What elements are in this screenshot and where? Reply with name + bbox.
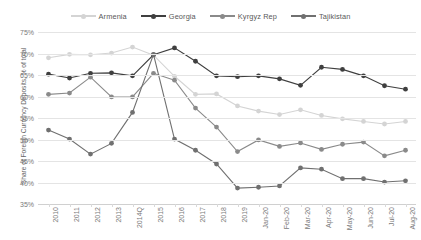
x-axis-tick [238, 204, 239, 207]
data-point[interactable] [172, 46, 177, 51]
legend-marker-icon-2 [220, 14, 225, 19]
x-axis-tick [154, 204, 155, 207]
legend-label-0: Armenia [99, 12, 127, 21]
x-axis-tick [364, 204, 365, 207]
data-point[interactable] [235, 149, 240, 154]
data-point[interactable] [46, 128, 51, 133]
data-point[interactable] [256, 109, 261, 114]
data-point[interactable] [67, 91, 72, 96]
gridline [38, 140, 416, 141]
x-axis-tick-label: Aug-20 [409, 207, 416, 230]
data-point[interactable] [130, 110, 135, 115]
legend-marker-icon-3 [301, 14, 306, 19]
data-point[interactable] [382, 153, 387, 158]
x-axis-tick [196, 204, 197, 207]
legend-label-3: Tajikistan [319, 12, 350, 21]
x-axis-tick-label: 2018 [220, 207, 227, 223]
y-axis-tick-label: 35% [20, 201, 34, 208]
y-axis-tick-label: 65% [20, 72, 34, 79]
gridline [38, 32, 416, 33]
x-axis-tick-label: 2019 [241, 207, 248, 223]
x-axis-tick [322, 204, 323, 207]
chart-legend: Armenia Georgia Kyrgyz Rep Tajikistan [0, 8, 421, 24]
x-axis-tick-label: Apr-20 [325, 207, 332, 228]
data-point[interactable] [277, 144, 282, 149]
legend-item-2[interactable]: Kyrgyz Rep [210, 12, 277, 21]
data-point[interactable] [298, 141, 303, 146]
y-axis-tick-label: 60% [20, 93, 34, 100]
x-axis-tick-label: 2010 [52, 207, 59, 223]
x-axis-tick [259, 204, 260, 207]
data-point[interactable] [130, 45, 135, 50]
legend-label-2: Kyrgyz Rep [238, 12, 277, 21]
x-axis-tick-label: Jan-20 [262, 207, 269, 228]
series-line-kyrgyz-rep [49, 73, 406, 156]
gridline [38, 54, 416, 55]
data-point[interactable] [235, 104, 240, 109]
data-point[interactable] [193, 148, 198, 153]
data-point[interactable] [214, 125, 219, 130]
data-point[interactable] [46, 55, 51, 60]
data-point[interactable] [298, 83, 303, 88]
data-point[interactable] [382, 122, 387, 127]
data-point[interactable] [298, 107, 303, 112]
data-point[interactable] [277, 112, 282, 117]
data-point[interactable] [256, 185, 261, 190]
y-axis-title-wrap: Share of Foreign Currency Deposits, % of… [0, 28, 12, 204]
data-point[interactable] [67, 76, 72, 81]
x-axis-tick-label: 2011 [73, 207, 80, 222]
x-axis-tick-label: Jul-20 [388, 207, 395, 226]
data-point[interactable] [235, 186, 240, 191]
data-point[interactable] [403, 87, 408, 92]
chart-container: Armenia Georgia Kyrgyz Rep Tajikistan Sh… [0, 0, 421, 240]
data-point[interactable] [193, 106, 198, 111]
x-axis-tick-label: 2017 [199, 207, 206, 223]
legend-item-1[interactable]: Georgia [141, 12, 196, 21]
legend-marker-icon-0 [81, 14, 86, 19]
y-axis-tick-label: 40% [20, 179, 34, 186]
data-point[interactable] [193, 59, 198, 64]
data-point[interactable] [109, 141, 114, 146]
data-point[interactable] [88, 152, 93, 157]
data-point[interactable] [340, 67, 345, 72]
data-point[interactable] [172, 78, 177, 83]
x-axis-tick [49, 204, 50, 207]
x-axis-tick [70, 204, 71, 207]
data-point[interactable] [340, 142, 345, 147]
data-point[interactable] [382, 83, 387, 88]
x-axis-tick-label: 2012 [94, 207, 101, 223]
data-point[interactable] [319, 147, 324, 152]
gridline [38, 97, 416, 98]
data-point[interactable] [403, 148, 408, 153]
data-point[interactable] [298, 165, 303, 170]
x-axis-tick-label: 2013 [115, 207, 122, 223]
x-axis-tick-label: 2016 [178, 207, 185, 223]
x-axis-tick [112, 204, 113, 207]
x-axis-tick-label: May-20 [346, 207, 353, 230]
data-point[interactable] [319, 65, 324, 70]
x-axis-tick [280, 204, 281, 207]
gridline [38, 75, 416, 76]
data-point[interactable] [277, 184, 282, 189]
data-point[interactable] [277, 76, 282, 81]
y-axis-tick-label: 75% [20, 29, 34, 36]
data-point[interactable] [361, 176, 366, 181]
y-axis-tick-label: 45% [20, 158, 34, 165]
legend-item-3[interactable]: Tajikistan [291, 12, 350, 21]
x-axis-tick [301, 204, 302, 207]
x-axis-tick-label: 2014Q [136, 207, 143, 228]
y-axis-tick-label: 50% [20, 136, 34, 143]
data-point[interactable] [361, 119, 366, 124]
x-axis-tick [217, 204, 218, 207]
legend-marker-icon-1 [151, 14, 156, 19]
x-axis-tick-label: 2015 [157, 207, 164, 223]
legend-item-0[interactable]: Armenia [71, 12, 127, 21]
data-point[interactable] [403, 119, 408, 124]
x-axis-tick [91, 204, 92, 207]
y-axis-tick-label: 55% [20, 115, 34, 122]
data-point[interactable] [319, 167, 324, 172]
data-point[interactable] [214, 162, 219, 167]
legend-label-1: Georgia [169, 12, 196, 21]
data-point[interactable] [340, 176, 345, 181]
x-axis-tick [343, 204, 344, 207]
